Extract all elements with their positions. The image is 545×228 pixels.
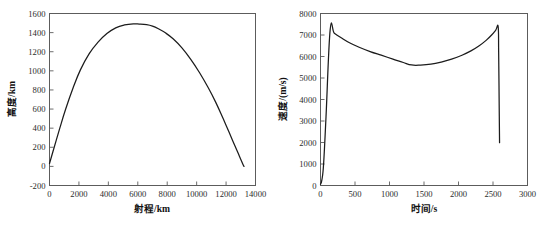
y-tick-label: 200 <box>33 142 46 152</box>
x-tick-label: 4000 <box>100 189 117 199</box>
y-tick-label: 4000 <box>299 95 316 105</box>
x-axis-label-right: 时间/s <box>411 203 438 214</box>
x-tick-label: 0 <box>47 189 51 199</box>
x-tick-label: 1000 <box>381 189 398 199</box>
x-tick-label: 500 <box>349 189 362 199</box>
y-axis-label-right: 速度/(m/s) <box>277 77 289 120</box>
x-axis-label-left: 射程/km <box>133 203 170 214</box>
x-tick-label: 1500 <box>415 189 432 199</box>
y-tick-label: 1400 <box>28 28 45 38</box>
y-tick-label: 0 <box>312 181 316 191</box>
x-tick-label: 2500 <box>484 189 501 199</box>
y-tick-label: 0 <box>41 161 45 171</box>
x-tick-label: 0 <box>318 189 322 199</box>
y-tick-label: 800 <box>33 85 46 95</box>
x-tick-label: 6000 <box>129 189 146 199</box>
chart-panel-velocity-vs-time: 010002000300040005000600070008000 050010… <box>272 0 545 228</box>
y-tick-label: -200 <box>30 181 46 191</box>
chart-panel-altitude-vs-range: -20002004006008001000120014001600 020004… <box>0 0 272 228</box>
y-tick-label: 1000 <box>299 159 316 169</box>
altitude-chart-svg: -20002004006008001000120014001600 020004… <box>0 0 272 228</box>
y-tick-label: 2000 <box>299 138 316 148</box>
y-tick-label: 1600 <box>28 9 45 19</box>
y-tick-label: 3000 <box>299 116 316 126</box>
x-tick-label: 10000 <box>186 189 207 199</box>
x-tick-label: 2000 <box>450 189 467 199</box>
figure-container: -20002004006008001000120014001600 020004… <box>0 0 545 228</box>
y-tick-label: 1000 <box>28 66 45 76</box>
y-tick-label: 600 <box>33 104 46 114</box>
y-axis-label-left: 高度/km <box>6 81 17 117</box>
x-tick-label: 3000 <box>519 189 536 199</box>
x-tick-label: 14000 <box>245 189 266 199</box>
y-tick-label: 400 <box>33 123 46 133</box>
y-tick-label: 7000 <box>299 30 316 40</box>
x-tick-label: 8000 <box>159 189 176 199</box>
y-tick-label: 1200 <box>28 47 45 57</box>
x-tick-label: 12000 <box>215 189 236 199</box>
velocity-chart-svg: 010002000300040005000600070008000 050010… <box>272 0 545 228</box>
y-tick-label: 5000 <box>299 73 316 83</box>
y-tick-label: 8000 <box>299 9 316 19</box>
y-tick-label: 6000 <box>299 52 316 62</box>
x-tick-label: 2000 <box>70 189 87 199</box>
